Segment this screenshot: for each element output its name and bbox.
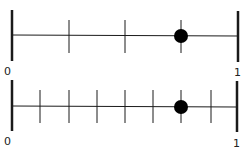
- number-line-eighths: [12, 80, 237, 132]
- number-lines-diagram: [0, 0, 249, 151]
- label-end-top: 1: [234, 67, 241, 78]
- point-marker: [174, 100, 188, 114]
- number-line-fourths: [12, 10, 238, 62]
- point-marker: [174, 29, 188, 43]
- label-end-bottom: 1: [233, 138, 240, 149]
- label-start-top: 0: [4, 66, 11, 77]
- label-start-bottom: 0: [4, 136, 11, 147]
